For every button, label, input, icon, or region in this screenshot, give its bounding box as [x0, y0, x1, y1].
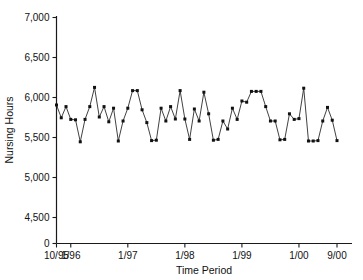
- x-tick-label: 1/98: [175, 250, 195, 261]
- data-point-marker: [259, 90, 262, 93]
- data-point-marker: [174, 118, 177, 121]
- y-tick-labels: 04,5005,0005,5006,0006,5007,000: [24, 12, 49, 249]
- data-point-marker: [84, 118, 87, 121]
- data-point-marker: [107, 120, 110, 123]
- data-point-marker: [212, 139, 215, 142]
- data-point-marker: [79, 140, 82, 143]
- data-point-marker: [122, 120, 125, 123]
- data-point-marker: [217, 138, 220, 141]
- data-point-marker: [188, 138, 191, 141]
- data-point-marker: [231, 107, 234, 110]
- data-point-marker: [60, 116, 63, 119]
- data-point-marker: [293, 118, 296, 121]
- data-point-marker: [183, 118, 186, 121]
- data-series-nursing-hours: [55, 86, 339, 143]
- data-point-marker: [55, 104, 58, 107]
- data-point-marker: [169, 105, 172, 108]
- data-point-marker: [88, 105, 91, 108]
- data-point-marker: [321, 120, 324, 123]
- data-point-marker: [198, 120, 201, 123]
- data-point-marker: [193, 108, 196, 111]
- x-tick-label: 1/00: [289, 250, 309, 261]
- data-point-marker: [302, 87, 305, 90]
- y-tick-label: 5,500: [24, 132, 49, 143]
- y-tick-label: 4,500: [24, 212, 49, 223]
- data-point-marker: [93, 86, 96, 89]
- y-tick-label: 6,500: [24, 52, 49, 63]
- x-axis-title: Time Period: [176, 264, 232, 276]
- data-point-marker: [131, 89, 134, 92]
- data-point-marker: [269, 120, 272, 123]
- data-point-marker: [103, 105, 106, 108]
- data-point-marker: [326, 106, 329, 109]
- data-point-marker: [274, 120, 277, 123]
- y-tick-label: 7,000: [24, 12, 49, 23]
- data-point-marker: [141, 108, 144, 111]
- data-point-marker: [283, 138, 286, 141]
- data-point-marker: [150, 139, 153, 142]
- y-tick-label: 0: [44, 238, 50, 249]
- data-point-marker: [164, 120, 167, 123]
- data-point-marker: [155, 139, 158, 142]
- y-axis-title: Nursing Hours: [3, 96, 15, 163]
- data-point-marker: [145, 121, 148, 124]
- data-point-marker: [117, 140, 120, 143]
- data-point-marker: [240, 100, 243, 103]
- x-tick-labels: 10/951/961/971/981/991/009/00: [44, 250, 347, 261]
- data-point-marker: [331, 119, 334, 122]
- x-tick-marks: [57, 244, 338, 248]
- data-point-marker: [312, 140, 315, 143]
- x-tick-label: 9/00: [327, 250, 347, 261]
- data-point-marker: [264, 105, 267, 108]
- data-point-marker: [179, 89, 182, 92]
- chart-canvas: 04,5005,0005,5006,0006,5007,000 10/951/9…: [0, 0, 363, 280]
- y-tick-label: 5,000: [24, 172, 49, 183]
- x-tick-label: 1/96: [61, 250, 81, 261]
- x-tick-label: 1/97: [118, 250, 138, 261]
- data-point-marker: [288, 112, 291, 115]
- data-point-marker: [226, 128, 229, 131]
- data-point-marker: [316, 139, 319, 142]
- data-point-marker: [112, 107, 115, 110]
- data-point-marker: [221, 120, 224, 123]
- data-point-marker: [250, 90, 253, 93]
- data-point-marker: [65, 105, 68, 108]
- nursing-hours-line-chart: 04,5005,0005,5006,0006,5007,000 10/951/9…: [0, 0, 363, 280]
- x-tick-label: 1/99: [232, 250, 252, 261]
- data-point-marker: [160, 107, 163, 110]
- series-polyline: [57, 87, 338, 141]
- data-point-marker: [307, 140, 310, 143]
- data-point-marker: [278, 138, 281, 141]
- data-point-marker: [255, 90, 258, 93]
- data-point-marker: [207, 112, 210, 115]
- data-point-marker: [69, 118, 72, 121]
- y-tick-label: 6,000: [24, 92, 49, 103]
- data-point-marker: [136, 89, 139, 92]
- data-point-marker: [297, 117, 300, 120]
- data-point-marker: [236, 118, 239, 121]
- data-point-marker: [98, 116, 101, 119]
- data-point-marker: [126, 107, 129, 110]
- data-point-marker: [202, 91, 205, 94]
- data-point-marker: [74, 118, 77, 121]
- data-point-marker: [245, 101, 248, 104]
- data-point-marker: [336, 139, 339, 142]
